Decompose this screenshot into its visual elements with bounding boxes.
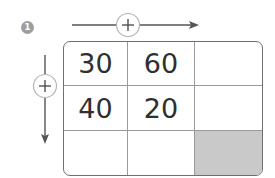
grid-cell-r2c3-answer[interactable] bbox=[195, 86, 262, 131]
addition-grid: 30 60 40 20 bbox=[63, 41, 263, 176]
grid-cell-r1c1: 30 bbox=[64, 42, 128, 86]
grid-cell-r1c3-answer[interactable] bbox=[195, 42, 262, 86]
horizontal-plus-arrow-icon bbox=[72, 14, 199, 37]
grid-cell-r3c3-shaded bbox=[195, 131, 262, 175]
grid-cell-r3c1-answer[interactable] bbox=[64, 131, 128, 175]
vertical-plus-arrow-icon bbox=[34, 55, 57, 144]
grid-cell-r2c1: 40 bbox=[64, 86, 128, 131]
grid-cell-r2c2: 20 bbox=[128, 86, 195, 131]
grid-cell-r1c2: 60 bbox=[128, 42, 195, 86]
grid-cell-r3c2-answer[interactable] bbox=[128, 131, 195, 175]
